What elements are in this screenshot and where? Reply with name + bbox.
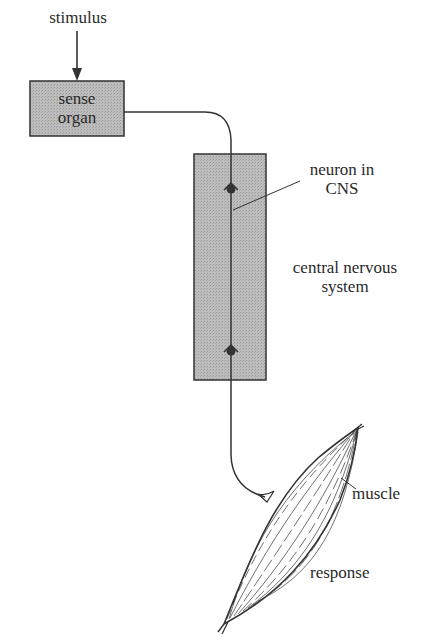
stimulus-arrow	[72, 31, 82, 81]
cns-label: central nervous system	[272, 258, 418, 296]
sense-organ-label: sense organ	[30, 89, 124, 127]
neuron-label-line1: neuron in	[300, 160, 384, 179]
muscle-label: muscle	[352, 484, 418, 503]
sense-organ-label-line2: organ	[30, 108, 124, 127]
cns-label-line1: central nervous	[272, 258, 418, 277]
muscle-shape	[218, 424, 364, 634]
neuron-label: neuron in CNS	[300, 160, 384, 198]
cns-label-line2: system	[272, 277, 418, 296]
sense-organ-label-line1: sense	[30, 89, 124, 108]
response-label: response	[310, 563, 390, 582]
neuron-label-line2: CNS	[300, 179, 384, 198]
stimulus-label: stimulus	[34, 8, 122, 27]
motor-nerve	[231, 380, 265, 497]
